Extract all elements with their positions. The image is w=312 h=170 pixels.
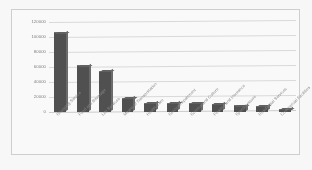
x-axis-category-labels: Shopping ServiceFood and BeverageLife Se…: [49, 114, 296, 158]
bar-slot: [212, 22, 224, 112]
bar-slot: [122, 22, 134, 112]
y-axis-tick-label: 60000: [34, 65, 46, 69]
bar-series: [49, 22, 296, 112]
y-axis-tick-label: 120000: [31, 20, 46, 24]
chart-container: 020000400006000080000100000120000 Shoppi…: [0, 0, 312, 170]
bar-slot: [189, 22, 201, 112]
bar-slot: [256, 22, 268, 112]
bar-slot: [279, 22, 291, 112]
y-axis-tick-label: 20000: [34, 95, 46, 99]
chart-frame: 020000400006000080000100000120000 Shoppi…: [11, 9, 300, 155]
bar[interactable]: [54, 32, 66, 112]
bar-slot: [234, 22, 246, 112]
bar-slot: [77, 22, 89, 112]
bar-slot: [99, 22, 111, 112]
bar-slot: [167, 22, 179, 112]
y-axis-tick-label: 80000: [34, 50, 46, 54]
plot-area: [49, 22, 296, 112]
bar-slot: [144, 22, 156, 112]
bar-slot: [54, 22, 66, 112]
y-axis-tick-label: 40000: [34, 80, 46, 84]
y-axis-tick-label: 100000: [31, 35, 46, 39]
y-axis-tick-label: 0: [44, 110, 46, 114]
y-axis-tick-labels: 020000400006000080000100000120000: [12, 22, 48, 112]
